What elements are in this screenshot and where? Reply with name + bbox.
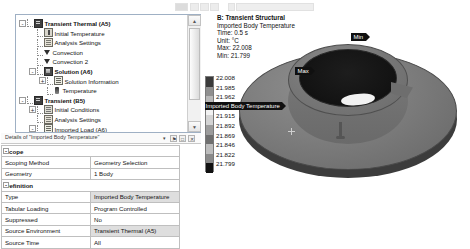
scroll-up-icon: ▲ [192, 18, 197, 24]
close-icon[interactable]: ✕ [188, 135, 195, 142]
legend-swatch [206, 144, 213, 154]
details-row[interactable]: Tabular LoadingProgram Controlled [2, 202, 180, 213]
collapse-icon[interactable]: - [19, 97, 26, 104]
tree-spacer [29, 116, 36, 123]
tree-item-solution-information[interactable]: +Solution Information [19, 76, 188, 86]
legend-color-bar[interactable] [205, 76, 214, 172]
details-property-name: Suppressed [2, 214, 91, 225]
details-section-header[interactable]: -Definition [2, 180, 180, 191]
legend-swatch [206, 135, 213, 145]
tree-connector [37, 106, 43, 114]
tree-item-transient-b5[interactable]: -Transient (B5) [19, 95, 188, 105]
body-annotation-tag[interactable]: Imported Body Temperature [205, 102, 282, 110]
tree-connector [27, 96, 33, 104]
outline-tree-panel[interactable]: -Transient Thermal (A5)Initial Temperatu… [15, 14, 201, 133]
collapse-icon[interactable]: - [3, 148, 9, 154]
tree-item-label: Analysis Settings [55, 116, 101, 123]
details-property-name: Tabular Loading [2, 202, 91, 213]
tree-connector [37, 39, 43, 47]
tree-spacer [29, 29, 36, 36]
pin-icon[interactable]: ⚑ [170, 135, 177, 142]
details-panel-title: Details of "Imported Body Temperature" [5, 134, 100, 140]
tree-item-analysis-settings[interactable]: Analysis Settings [19, 114, 188, 124]
details-section-row[interactable]: -Scope [2, 146, 180, 157]
thermometer-icon [44, 28, 53, 37]
details-property-value[interactable]: Geometry Selection [91, 157, 180, 168]
scroll-down-icon: ▼ [192, 124, 197, 130]
details-section-label: Definition [5, 182, 33, 189]
max-annotation-tag[interactable]: Max [295, 67, 311, 75]
details-row[interactable]: Source EnvironmentTransient Thermal (A5) [2, 225, 180, 236]
scroll-down-button[interactable]: ▼ [188, 121, 201, 132]
graphics-viewport[interactable]: B: Transient Structural Imported Body Te… [205, 13, 470, 244]
tree-item-transient-thermal-a5[interactable]: -Transient Thermal (A5) [19, 18, 188, 28]
collapse-icon[interactable]: - [3, 182, 9, 188]
legend-swatch [206, 154, 213, 164]
toolbar-combo[interactable] [236, 3, 314, 11]
analysis-system-label: B: Transient Structural [217, 14, 285, 21]
collapse-icon[interactable]: - [29, 125, 36, 132]
details-property-name: Source Time [2, 237, 91, 248]
details-property-value[interactable]: 1 Body [91, 168, 180, 179]
tree-connector [47, 87, 53, 95]
tree-item-convection-2[interactable]: Convection 2 [19, 56, 188, 66]
legend-swatch [206, 163, 213, 173]
toolbar-icon-3[interactable] [200, 3, 209, 11]
tree-item-label: Analysis Settings [55, 39, 101, 46]
details-row[interactable]: Scoping MethodGeometry Selection [2, 157, 180, 168]
outline-tree-scrollbar[interactable]: ▲ ▼ [187, 15, 201, 132]
collapse-icon[interactable]: - [29, 68, 36, 75]
tree-connector [37, 125, 43, 133]
expand-icon[interactable]: + [29, 106, 36, 113]
details-property-value[interactable]: No [91, 214, 180, 225]
min-annotation-tag[interactable]: Min [351, 33, 366, 41]
tree-item-label: Temperature [63, 87, 97, 94]
scroll-up-button[interactable]: ▲ [188, 15, 201, 26]
settings-sheet-icon [44, 115, 53, 124]
tree-connector [37, 29, 43, 37]
details-property-value[interactable]: Imported Body Temperature [91, 191, 180, 202]
conditions-icon [44, 105, 53, 114]
tree-item-initial-temperature[interactable]: Initial Temperature [19, 28, 188, 38]
details-property-value[interactable]: All [91, 237, 180, 248]
collapse-icon[interactable]: - [19, 20, 26, 27]
legend-swatch [206, 125, 213, 135]
details-row[interactable]: Source TimeAll [2, 237, 180, 248]
tree-connector [37, 115, 43, 123]
details-row[interactable]: Geometry1 Body [2, 168, 180, 179]
tree-item-imported-load-a6[interactable]: -Imported Load (A6) [19, 124, 188, 133]
toolbar-icon-5[interactable] [228, 3, 235, 11]
tree-item-label: Convection 2 [53, 58, 89, 65]
tree-item-label: Convection [53, 48, 84, 55]
tree-item-label: Solution (A6) [55, 68, 93, 75]
details-property-value[interactable]: Program Controlled [91, 202, 180, 213]
details-panel-titlebar: Details of "Imported Body Temperature" ▾… [1, 133, 201, 144]
details-section-row[interactable]: -Definition [2, 180, 180, 191]
maximize-icon[interactable]: □ [179, 135, 186, 142]
tree-item-label: Solution Information [65, 77, 119, 84]
details-property-value[interactable]: Transient Thermal (A5) [91, 225, 180, 236]
legend-swatch [206, 87, 213, 97]
tree-connector [37, 67, 43, 75]
details-row[interactable]: SuppressedNo [2, 214, 180, 225]
outline-tree[interactable]: -Transient Thermal (A5)Initial Temperatu… [16, 15, 188, 132]
toolbar-icon-2[interactable] [190, 3, 199, 11]
toolbar-icon-4[interactable] [210, 3, 219, 11]
dropdown-icon[interactable]: ▾ [161, 135, 168, 142]
legend-swatch [206, 77, 213, 87]
details-row[interactable]: TypeImported Body Temperature [2, 191, 180, 202]
details-section-header[interactable]: -Scope [2, 146, 180, 157]
scrollbar-thumb[interactable] [189, 28, 200, 100]
details-table[interactable]: -ScopeScoping MethodGeometry SelectionGe… [1, 145, 180, 249]
tree-item-analysis-settings[interactable]: Analysis Settings [19, 37, 188, 47]
details-property-name: Scoping Method [2, 157, 91, 168]
model-3d-disc[interactable]: Min Max Imported Body Temperature [233, 30, 465, 198]
tree-spacer [29, 49, 36, 56]
expand-icon[interactable]: + [39, 77, 46, 84]
tree-item-convection[interactable]: Convection [19, 47, 188, 57]
tree-item-solution-a6[interactable]: -Solution (A6) [19, 66, 188, 76]
details-panel: Details of "Imported Body Temperature" ▾… [1, 133, 201, 243]
tree-item-initial-conditions[interactable]: +Initial Conditions [19, 104, 188, 114]
toolbar-icon-1[interactable] [175, 3, 188, 11]
tree-item-temperature[interactable]: Temperature [19, 85, 188, 95]
